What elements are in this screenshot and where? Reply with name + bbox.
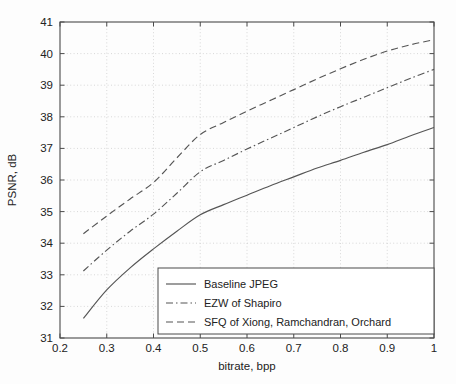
y-axis-tick-label: 33 <box>40 269 53 281</box>
x-axis-title: bitrate, bpp <box>218 360 276 372</box>
x-axis-tick-label: 0.8 <box>333 342 349 354</box>
x-axis-tick-label: 0.5 <box>192 342 208 354</box>
x-axis-tick-label: 1 <box>431 342 437 354</box>
x-axis-tick-label: 0.3 <box>99 342 115 354</box>
x-axis-tick-label: 0.9 <box>379 342 395 354</box>
y-axis-tick-label: 36 <box>40 174 53 186</box>
x-axis-tick-label: 0.4 <box>146 342 163 354</box>
y-axis-tick-label: 37 <box>40 142 53 154</box>
legend: Baseline JPEGEZW of ShapiroSFQ of Xiong,… <box>158 268 434 334</box>
legend-label-1: Baseline JPEG <box>204 278 278 290</box>
x-axis-tick-label: 0.6 <box>239 342 255 354</box>
x-axis-tick-label: 0.2 <box>52 342 68 354</box>
y-axis-tick-label: 34 <box>40 237 53 249</box>
y-axis-tick-label: 38 <box>40 111 53 123</box>
chart-figure: 0.20.30.40.50.60.70.80.91313233343536373… <box>0 0 456 384</box>
legend-label-3: SFQ of Xiong, Ramchandran, Orchard <box>204 316 391 328</box>
y-axis-tick-label: 39 <box>40 79 53 91</box>
y-axis-tick-label: 35 <box>40 206 53 218</box>
psnr-vs-bitrate-plot: 0.20.30.40.50.60.70.80.91313233343536373… <box>0 0 456 384</box>
y-axis-tick-label: 40 <box>40 48 53 60</box>
legend-label-2: EZW of Shapiro <box>204 297 282 309</box>
y-axis-tick-label: 41 <box>40 16 53 28</box>
y-axis-tick-label: 32 <box>40 300 53 312</box>
x-axis-tick-label: 0.7 <box>286 342 302 354</box>
y-axis-tick-label: 31 <box>40 332 53 344</box>
y-axis-title: PSNR, dB <box>6 153 18 206</box>
